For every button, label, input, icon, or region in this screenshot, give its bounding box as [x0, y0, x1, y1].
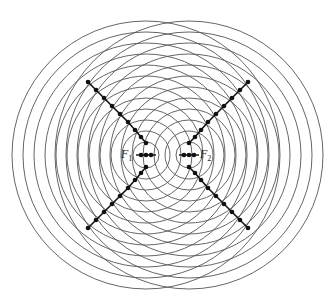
nodal-point [187, 141, 192, 146]
nodal-point [246, 80, 251, 85]
nodal-point [94, 218, 99, 223]
nodal-point [230, 210, 235, 215]
nodal-point [102, 96, 107, 101]
nodal-point [199, 178, 204, 183]
focus-dot [187, 153, 192, 158]
nodal-point [230, 96, 235, 101]
focus-dot [139, 153, 144, 158]
focus-label-f1: F1 [121, 148, 132, 163]
nodal-point [187, 165, 192, 170]
nodal-point [126, 120, 131, 125]
nodal-point [144, 141, 149, 146]
nodal-point [110, 104, 115, 109]
nodal-point [102, 210, 107, 215]
nodal-point [86, 80, 91, 85]
nodal-point [193, 171, 198, 176]
interference-diagram [0, 0, 335, 303]
f1-subscript: 1 [128, 154, 132, 163]
nodal-point [133, 128, 138, 133]
nodal-point [238, 88, 243, 93]
nodal-point [222, 202, 227, 207]
nodal-point [118, 112, 123, 117]
nodal-point [222, 104, 227, 109]
f2-subscript: 2 [207, 154, 211, 163]
nodal-point [139, 171, 144, 176]
nodal-point [94, 88, 99, 93]
focus-dot [149, 153, 154, 158]
nodal-point [214, 194, 219, 199]
nodal-point [246, 226, 251, 231]
nodal-point [199, 128, 204, 133]
nodal-point [206, 120, 211, 125]
nodal-point [214, 112, 219, 117]
nodal-point [118, 194, 123, 199]
nodal-point [86, 226, 91, 231]
nodal-point [238, 218, 243, 223]
wavefront-circles [12, 21, 323, 289]
nodal-point [206, 186, 211, 191]
focus-dot [144, 153, 149, 158]
nodal-point [139, 135, 144, 140]
focus-dot [192, 153, 197, 158]
focus-dot [182, 153, 187, 158]
nodal-point [144, 165, 149, 170]
nodal-point [110, 202, 115, 207]
nodal-point [133, 178, 138, 183]
nodal-point [126, 186, 131, 191]
nodal-point [193, 135, 198, 140]
focus-label-f2: F2 [200, 148, 211, 163]
